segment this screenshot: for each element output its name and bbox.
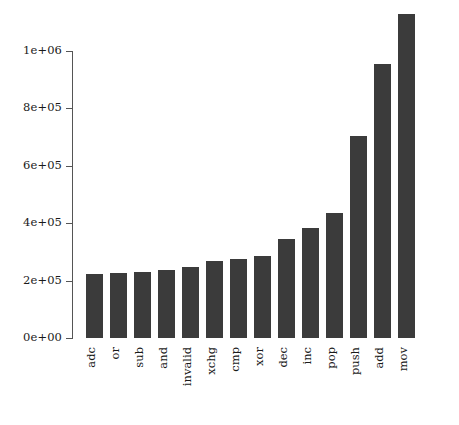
y-axis-tick xyxy=(66,108,72,109)
x-axis-tick-label: add xyxy=(374,347,391,369)
bar xyxy=(158,270,175,338)
x-axis-tick-label: mov xyxy=(398,347,415,371)
y-axis-tick xyxy=(66,51,72,52)
y-axis-tick xyxy=(66,338,72,339)
y-axis-tick xyxy=(66,281,72,282)
bar xyxy=(206,261,223,338)
x-axis-tick-label: cmp xyxy=(230,347,247,372)
y-axis-tick xyxy=(66,223,72,224)
x-axis-tick-label: inc xyxy=(302,347,319,365)
plot-area: 0e+002e+054e+056e+058e+051e+06 adcorsuba… xyxy=(0,0,459,425)
bar xyxy=(182,267,199,338)
bar xyxy=(302,228,319,338)
y-axis-tick-label: 6e+05 xyxy=(0,160,62,172)
x-axis-tick-label: and xyxy=(158,347,175,369)
bar xyxy=(86,274,103,338)
x-axis-tick-label: sub xyxy=(134,347,151,368)
y-axis-tick-label: 8e+05 xyxy=(0,102,62,114)
x-axis-tick-label: push xyxy=(350,347,367,375)
x-axis-tick-label: dec xyxy=(278,347,295,368)
x-axis-tick-label: pop xyxy=(326,347,343,369)
y-axis-tick-label: 4e+05 xyxy=(0,217,62,229)
bar-chart-figure: 0e+002e+054e+056e+058e+051e+06 adcorsuba… xyxy=(0,0,459,425)
bar xyxy=(230,259,247,338)
bar xyxy=(110,273,127,338)
bar xyxy=(278,239,295,338)
x-axis-tick-label: adc xyxy=(86,347,103,368)
bar xyxy=(254,256,271,338)
bar xyxy=(326,213,343,338)
y-axis-tick-label: 1e+06 xyxy=(0,45,62,57)
y-axis-tick xyxy=(66,166,72,167)
bar xyxy=(350,136,367,338)
y-axis-tick-label: 0e+00 xyxy=(0,332,62,344)
y-axis-tick-label: 2e+05 xyxy=(0,275,62,287)
x-axis-tick-label: xor xyxy=(254,347,271,366)
y-axis-line xyxy=(72,51,73,339)
x-axis-tick-label: or xyxy=(110,347,127,359)
bar xyxy=(398,14,415,338)
bar xyxy=(134,272,151,338)
bar xyxy=(374,64,391,338)
x-axis-tick-label: invalid xyxy=(182,347,199,386)
x-axis-tick-label: xchg xyxy=(206,347,223,375)
